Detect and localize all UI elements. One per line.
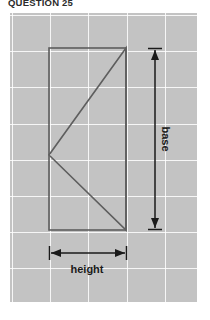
- page-title: QUESTION 25: [8, 0, 73, 8]
- height-dimension-label: height: [71, 263, 104, 275]
- dimension-height: height: [50, 246, 127, 275]
- geometry-diagram-panel: base height: [10, 13, 197, 302]
- page-root: QUESTION 25 base: [0, 0, 210, 320]
- figure-svg: base height: [10, 13, 197, 302]
- base-arrowhead-up: [151, 50, 159, 60]
- base-arrowhead-down: [151, 218, 159, 228]
- dimension-base: base: [148, 49, 172, 230]
- triangle-outline: [49, 48, 126, 230]
- base-dimension-label: base: [160, 126, 172, 151]
- height-arrowhead-left: [51, 249, 61, 257]
- height-arrowhead-right: [115, 249, 125, 257]
